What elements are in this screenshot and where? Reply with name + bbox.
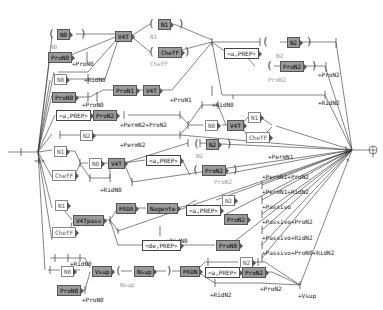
node-a-prep-b[interactable]: <a,PREP>	[186, 205, 221, 216]
node-v4t-top[interactable]: V4T	[115, 31, 132, 42]
node-a-prep-c[interactable]: <a,PREP>	[146, 155, 181, 166]
output-permn1-pron2: +PermN1+ProN2	[262, 173, 309, 180]
node-pron0[interactable]: ProN0	[48, 52, 72, 63]
node-pada[interactable]: PADA	[116, 203, 136, 214]
close-paren: )	[306, 36, 313, 47]
node-v4t-c[interactable]: V4T	[108, 158, 125, 169]
output-permn1-ridn2: +PermN1+RidN2	[262, 188, 309, 195]
var-label-chef: ChefF	[150, 60, 168, 67]
output-passivo-ridn2: +Passivo+RidN2	[262, 234, 313, 241]
node-de-prep[interactable]: <de,PREP>	[142, 240, 181, 251]
output-passivo-pron2: +Passivo+ProN2	[262, 218, 313, 225]
node-n2-top[interactable]: N2	[287, 37, 300, 48]
node-n0-c[interactable]: N0	[89, 158, 102, 169]
output-pron0-b: +ProN0	[82, 101, 104, 108]
node-n2-l[interactable]: N2	[80, 130, 93, 141]
var-label-n0: N0	[50, 43, 57, 50]
close-paren: )	[166, 265, 173, 276]
close-paren: )	[184, 46, 191, 57]
node-pron2-b[interactable]: ProN2	[224, 214, 248, 225]
node-n0-r[interactable]: N0	[205, 120, 218, 131]
node-v4tpass[interactable]: V4Tpass	[73, 215, 104, 226]
open-paren: (	[266, 60, 273, 71]
var-label-pron2-c: ProN2	[214, 178, 232, 185]
node-pron2-top[interactable]: ProN2	[280, 61, 304, 72]
var-label-pron2: ProN2	[268, 76, 286, 83]
node-pron1-mid[interactable]: ProN1	[113, 85, 137, 96]
node-n1-b[interactable]: N1	[55, 200, 68, 211]
node-vsup[interactable]: Vsup	[92, 266, 112, 277]
node-n0-low[interactable]: N0	[61, 266, 74, 277]
close-paren: )	[311, 60, 318, 71]
final-state-arrow: >	[346, 156, 350, 163]
open-paren: (	[192, 164, 199, 175]
output-ridn0-r: +RidN0	[212, 101, 234, 108]
node-n0-top[interactable]: N0	[57, 29, 70, 40]
open-paren: (	[148, 18, 155, 29]
output-pron1: +ProN1	[170, 96, 192, 103]
node-a-prep-low[interactable]: <a,PREP>	[205, 267, 240, 278]
output-passivo-pron0-ridn2: +Passivo+ProN0+RidN2	[262, 249, 334, 256]
output-pron0: +ProN0	[72, 60, 94, 67]
open-paren: (	[262, 36, 269, 47]
node-chef-r[interactable]: ChefF	[246, 132, 270, 143]
output-pron0-low: +ProN0	[82, 296, 104, 303]
node-pron2-c[interactable]: ProN2	[202, 165, 226, 176]
node-n1-top[interactable]: N1	[158, 19, 171, 30]
output-ridn2-low: +RidN2	[210, 291, 232, 298]
node-a-prep-top[interactable]: <a,PREP>	[224, 48, 259, 59]
node-chef-l[interactable]: ChefF	[52, 170, 76, 181]
node-a-prep-l[interactable]: <a,PREP>	[56, 110, 91, 121]
node-n2-c[interactable]: N2	[206, 139, 219, 150]
node-n1-r[interactable]: N1	[248, 112, 261, 123]
node-pron0-b[interactable]: ProN0	[216, 240, 240, 251]
node-v4t-mid[interactable]: V4T	[143, 85, 160, 96]
node-n0-b[interactable]: N0	[54, 74, 67, 85]
close-paren: )	[232, 164, 239, 175]
close-paren: )	[226, 138, 233, 149]
output-vsup: +Vsup	[298, 292, 316, 299]
node-n1-l[interactable]: N1	[54, 146, 67, 157]
node-chef-b[interactable]: ChefF	[52, 227, 76, 238]
grammar-graph-canvas: ( N0 ) N0 ProN0 +ProN0 N0 +RidN0 ProN0 +…	[0, 0, 383, 310]
node-nagente[interactable]: Nagente	[147, 203, 178, 214]
output-passivo: +Passivo	[262, 203, 291, 210]
close-paren: )	[178, 18, 185, 29]
open-paren: (	[48, 28, 55, 39]
close-paren: )	[80, 28, 87, 39]
node-nsup[interactable]: Nsup	[134, 266, 154, 277]
open-paren: (	[148, 46, 155, 57]
final-state-icon	[368, 145, 378, 155]
node-pron2-low[interactable]: ProN2	[242, 267, 266, 278]
var-label-nsup: Nsup	[120, 281, 134, 288]
var-label-n2-c: N2	[196, 152, 203, 159]
node-v4t-r[interactable]: V4T	[227, 120, 244, 131]
open-paren: (	[115, 265, 122, 276]
output-pron2-top: +ProN2	[318, 71, 340, 78]
output-pron2-low: +ProN2	[260, 285, 282, 292]
node-pron0-low[interactable]: ProN0	[57, 285, 81, 296]
initial-state-marker: <E>	[34, 157, 45, 164]
output-ridn2-top: +RidN2	[318, 99, 340, 106]
node-pron0-l[interactable]: ProN0	[52, 92, 76, 103]
node-chef-top[interactable]: ChefF	[158, 47, 182, 58]
node-pron2-l[interactable]: ProN2	[93, 110, 117, 121]
open-paren: (	[193, 138, 200, 149]
output-permn1: +PermN1	[268, 153, 293, 160]
output-ridn0-c: +RidN0	[100, 186, 122, 193]
output-ridn0-a: +RidN0	[84, 76, 106, 83]
var-label-n1: N1	[150, 33, 157, 40]
var-label-n2: N2	[276, 52, 283, 59]
node-n2-b[interactable]: N2	[222, 195, 235, 206]
output-permn2: +PermN2	[120, 141, 145, 148]
output-permn2-pron2: +PermN2+ProN2	[120, 121, 167, 128]
node-padn[interactable]: PADN	[180, 266, 200, 277]
